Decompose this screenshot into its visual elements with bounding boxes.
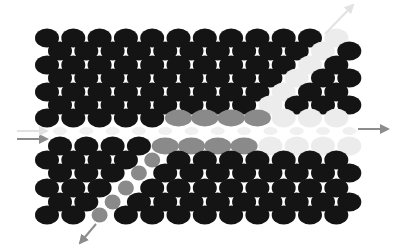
waveguide-marker: [158, 127, 172, 135]
hole-dark: [88, 109, 112, 128]
hole-dark: [140, 109, 164, 128]
hole-dark: [324, 206, 348, 225]
hole-dark: [61, 109, 85, 128]
hole-grey-elongated: [218, 110, 245, 127]
hole-grey-small: [144, 153, 160, 168]
waveguide-marker: [132, 127, 146, 135]
hole-grey-small: [131, 166, 147, 181]
hole-dark: [193, 206, 217, 225]
hole-ghost: [298, 109, 322, 128]
hole-dark: [35, 109, 59, 128]
hole-dark: [298, 206, 322, 225]
hole-dark: [219, 206, 243, 225]
hole-dark: [140, 206, 164, 225]
waveguide-marker: [237, 127, 251, 135]
hole-dark: [61, 206, 85, 225]
drop-lower-arrow: [80, 224, 96, 243]
waveguide-marker: [185, 127, 199, 135]
lattice-holes: [35, 29, 361, 225]
hole-grey-small: [105, 195, 121, 210]
waveguide-marker: [79, 127, 93, 135]
waveguide-marker: [53, 127, 67, 135]
hole-dark: [114, 109, 138, 128]
waveguide-marker: [106, 127, 120, 135]
hole-dark: [35, 206, 59, 225]
hole-grey-elongated: [191, 110, 218, 127]
hole-dark: [272, 206, 296, 225]
waveguide-marker: [211, 127, 225, 135]
photonic-crystal-diagram: [0, 0, 403, 252]
waveguide-marker: [342, 127, 356, 135]
waveguide-marker: [263, 127, 277, 135]
hole-grey-elongated: [165, 110, 192, 127]
lattice-canvas: [0, 0, 403, 252]
hole-grey-small: [92, 208, 108, 223]
hole-grey-small: [118, 181, 134, 196]
hole-grey-elongated: [244, 110, 271, 127]
hole-dark: [245, 206, 269, 225]
hole-ghost: [324, 109, 348, 128]
waveguide-marker: [316, 127, 330, 135]
waveguide-marker: [290, 127, 304, 135]
hole-dark: [167, 206, 191, 225]
hole-ghost: [272, 109, 296, 128]
hole-dark: [114, 206, 138, 225]
